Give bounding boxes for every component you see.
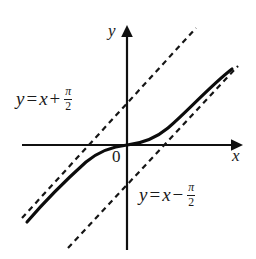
upper-label-equals: = — [24, 88, 39, 109]
upper-label-fraction: π2 — [64, 86, 72, 113]
lower-label-x: x — [162, 184, 170, 205]
x-axis-label: x — [232, 147, 240, 164]
y-axis-label: y — [108, 22, 116, 39]
lower-label-fraction: π2 — [187, 182, 195, 209]
graph-figure: y x 0 y=x+π2 y=x−π2 — [0, 0, 256, 259]
upper-label-operator: + — [48, 88, 63, 109]
lower-asymptote-label: y=x−π2 — [139, 182, 195, 209]
y-axis-arrowhead-icon — [121, 25, 133, 37]
upper-label-numerator: π — [64, 86, 72, 100]
origin-label: 0 — [112, 148, 121, 165]
lower-label-equals: = — [147, 184, 162, 205]
lower-label-numerator: π — [187, 182, 195, 196]
lower-label-denominator: 2 — [187, 196, 195, 209]
plot-canvas — [0, 0, 256, 259]
upper-label-denominator: 2 — [64, 100, 72, 113]
upper-asymptote-label: y=x+π2 — [16, 86, 72, 113]
lower-label-operator: − — [171, 184, 186, 205]
upper-label-x: x — [39, 88, 47, 109]
